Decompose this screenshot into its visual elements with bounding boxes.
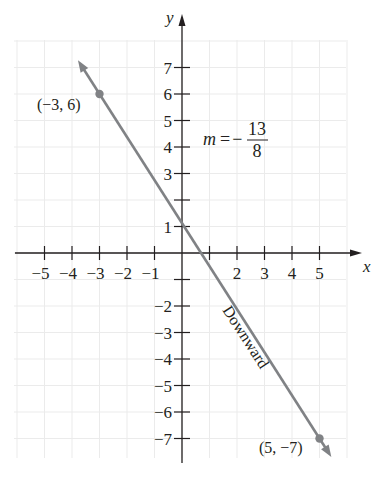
x-tick-label: 5 <box>315 264 324 283</box>
y-tick-label: −6 <box>154 403 172 422</box>
y-tick-label: −7 <box>154 430 173 449</box>
x-tick-label: −4 <box>59 264 78 283</box>
slope-numerator: 13 <box>248 119 266 139</box>
x-tick-label: 2 <box>233 264 242 283</box>
data-line <box>78 60 331 457</box>
y-tick-label: −4 <box>154 350 173 369</box>
x-tick-label: −5 <box>31 264 49 283</box>
y-tick-label: 3 <box>164 165 173 184</box>
x-tick-label: 3 <box>260 264 269 283</box>
slope-label: m=− 13 8 <box>203 119 268 161</box>
x-tick-label: −2 <box>114 264 132 283</box>
svg-text:m=−: m=− <box>203 129 242 149</box>
slope-denominator: 8 <box>253 141 262 161</box>
x-tick-label: 4 <box>288 264 297 283</box>
y-axis-label: y <box>164 8 174 27</box>
y-tick-label: 7 <box>164 59 173 78</box>
point-b-marker <box>315 434 323 442</box>
y-tick-label: 1 <box>164 218 173 237</box>
y-tick-label: −2 <box>154 297 172 316</box>
x-axis-label: x <box>362 257 371 276</box>
y-tick-label: −5 <box>154 377 172 396</box>
y-tick-label: −3 <box>154 324 172 343</box>
y-axis-arrow-icon <box>179 14 186 26</box>
line-arrow-down-icon <box>321 445 331 458</box>
y-tick-label: 4 <box>164 138 173 157</box>
x-axis-arrow-icon <box>350 250 362 257</box>
point-b-label: (5, −7) <box>259 439 303 457</box>
y-axis <box>179 14 186 463</box>
point-a-marker <box>95 90 103 98</box>
x-tick-label: −3 <box>86 264 104 283</box>
x-ticks: −5−4−3−2−12345 <box>31 246 323 283</box>
y-tick-label: 6 <box>164 85 173 104</box>
y-tick-label: 5 <box>164 112 173 131</box>
line-arrow-up-icon <box>78 60 88 73</box>
x-axis <box>15 250 362 257</box>
coordinate-plane: −5−4−3−2−12345 765431−2−3−4−5−6−7 x y (−… <box>0 0 386 481</box>
point-a-label: (−3, 6) <box>37 96 81 114</box>
x-tick-label: −1 <box>141 264 159 283</box>
